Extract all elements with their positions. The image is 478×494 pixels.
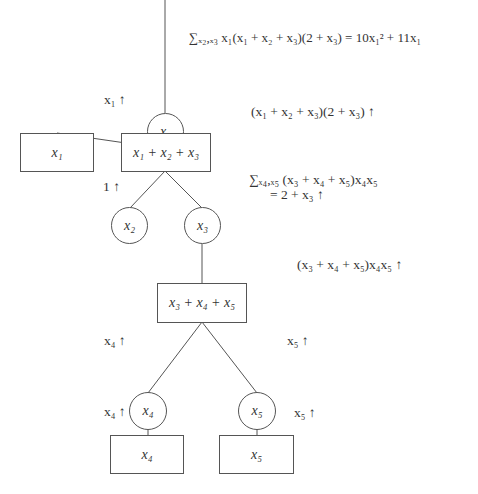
message-f123-up: (x₁ + x₂ + x₃)(2 + x₃) ↑	[251, 104, 375, 120]
message-f345-up: (x₃ + x₄ + x₅)x₄x₅ ↑	[297, 257, 402, 273]
message-one-up: 1 ↑	[103, 179, 120, 195]
variable-node-x3: x₃	[184, 207, 221, 244]
message-x4-up-lower: x₄ ↑	[104, 404, 126, 420]
variable-node-x2: x₂	[111, 207, 148, 244]
factor-node-x5: x₅	[219, 435, 294, 474]
message-x3-sum-line2: = 2 + x₃ ↑	[270, 187, 324, 203]
edge-f123-x3	[165, 171, 202, 208]
edges-layer	[0, 0, 478, 494]
factor-node-x4: x₄	[110, 435, 184, 474]
message-x5-up-lower: x₅ ↑	[294, 405, 316, 421]
edge-f123-x2	[130, 171, 165, 208]
variable-node-x4: x₄	[129, 392, 167, 430]
edge-f345-x5	[202, 322, 257, 393]
message-x5-up-upper: x₅ ↑	[287, 333, 309, 349]
message-root-sum: ∑ₓ₂,ₓ₃ x₁(x₁ + x₂ + x₃)(2 + x₃) = 10x₁² …	[189, 30, 421, 46]
message-x1-up: x₁ ↑	[104, 92, 126, 108]
factor-node-x1-x2-x3: x₁ + x₂ + x₃	[121, 133, 211, 172]
factor-node-x1: x₁	[20, 133, 94, 172]
message-x4-up-upper: x₄ ↑	[104, 333, 126, 349]
variable-node-x5: x₅	[238, 392, 276, 430]
edge-f345-x4	[148, 322, 202, 393]
message-x3-sum-line1: ∑ₓ₄,ₓ₅ (x₃ + x₄ + x₅)x₄x₅	[249, 172, 378, 188]
factor-node-x3-x4-x5: x₃ + x₄ + x₅	[157, 283, 247, 323]
